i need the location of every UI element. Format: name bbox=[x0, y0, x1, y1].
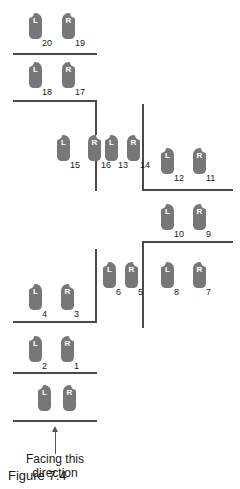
footprint: R9 bbox=[193, 204, 206, 230]
footprint-number: 7 bbox=[206, 288, 211, 297]
footprint-number: 18 bbox=[42, 88, 52, 97]
wall-bottom-2 bbox=[13, 372, 97, 374]
wall-vertical-right bbox=[142, 241, 144, 328]
direction-caption-line-1: Facing this bbox=[12, 452, 98, 466]
footprint: R11 bbox=[193, 148, 206, 174]
footprint-side-label: R bbox=[88, 138, 101, 147]
footprint-side-label: L bbox=[161, 265, 174, 274]
footprint-number: 2 bbox=[42, 362, 47, 371]
footprint: R7 bbox=[193, 262, 206, 288]
footprint-side-label: L bbox=[105, 138, 118, 147]
footprint-side-label: R bbox=[63, 388, 76, 397]
figure-label: Figure 7.4 bbox=[8, 468, 67, 483]
footprint-side-label: R bbox=[125, 265, 138, 274]
footprint-number: 1 bbox=[74, 362, 79, 371]
footprint-number: 14 bbox=[140, 161, 150, 170]
footprint: R19 bbox=[62, 13, 75, 39]
footprint-side-label: L bbox=[29, 65, 42, 74]
wall-right-upper bbox=[142, 189, 233, 191]
footprint: L18 bbox=[29, 62, 42, 88]
footprint: L bbox=[38, 385, 51, 411]
footprint-side-label: L bbox=[29, 339, 42, 348]
footprint: L12 bbox=[161, 148, 174, 174]
footprint: L8 bbox=[161, 262, 174, 288]
footprint: L2 bbox=[29, 336, 42, 362]
footprint-side-label: L bbox=[29, 16, 42, 25]
footprint-side-label: R bbox=[62, 65, 75, 74]
footprint-side-label: L bbox=[161, 151, 174, 160]
footprint: L20 bbox=[29, 13, 42, 39]
footprint-side-label: L bbox=[38, 388, 51, 397]
footprint-number: 12 bbox=[174, 174, 184, 183]
footprint: R1 bbox=[61, 336, 74, 362]
footprint-number: 6 bbox=[116, 288, 121, 297]
footprint-number: 11 bbox=[206, 174, 215, 183]
footprint: L15 bbox=[57, 135, 70, 161]
footprint: R bbox=[63, 385, 76, 411]
wall-vertical-mid-2 bbox=[95, 249, 97, 323]
footprint: R5 bbox=[125, 262, 138, 288]
footprint-number: 5 bbox=[138, 288, 143, 297]
footprint-side-label: R bbox=[62, 16, 75, 25]
footprint-number: 13 bbox=[118, 161, 128, 170]
footprint-number: 16 bbox=[101, 161, 111, 170]
footprint-side-label: L bbox=[57, 138, 70, 147]
figure-canvas: L20R19L18R17L15R16L13R14L12R11L10R9L8R7L… bbox=[0, 0, 240, 489]
footprint-number: 10 bbox=[174, 230, 184, 239]
wall-right-lower bbox=[142, 241, 233, 243]
footprint-side-label: R bbox=[61, 339, 74, 348]
wall-vertical-mid bbox=[142, 104, 144, 191]
arrow-shaft bbox=[55, 431, 56, 454]
footprint-number: 8 bbox=[174, 288, 179, 297]
footprint: R17 bbox=[62, 62, 75, 88]
wall-bottom-3 bbox=[13, 420, 97, 422]
footprint-side-label: L bbox=[103, 265, 116, 274]
footprint-side-label: R bbox=[193, 151, 206, 160]
footprint-number: 9 bbox=[206, 230, 211, 239]
footprint: R3 bbox=[61, 284, 74, 310]
footprint: R14 bbox=[127, 135, 140, 161]
footprint-number: 17 bbox=[75, 88, 85, 97]
up-arrow-icon bbox=[52, 426, 59, 454]
footprint: L10 bbox=[161, 204, 174, 230]
footprint: L13 bbox=[105, 135, 118, 161]
footprint: L6 bbox=[103, 262, 116, 288]
footprint-side-label: R bbox=[193, 265, 206, 274]
wall-bottom-1 bbox=[13, 321, 97, 323]
footprint-side-label: R bbox=[127, 138, 140, 147]
footprint-side-label: L bbox=[29, 287, 42, 296]
footprint-number: 4 bbox=[42, 310, 47, 319]
footprint-side-label: L bbox=[161, 207, 174, 216]
footprint: R16 bbox=[88, 135, 101, 161]
footprint-number: 19 bbox=[75, 39, 85, 48]
footprint-side-label: R bbox=[61, 287, 74, 296]
wall-top-2 bbox=[13, 100, 97, 102]
footprint-number: 20 bbox=[42, 39, 52, 48]
footprint: L4 bbox=[29, 284, 42, 310]
footprint-number: 15 bbox=[70, 161, 80, 170]
wall-top-1 bbox=[13, 53, 97, 55]
footprint-number: 3 bbox=[74, 310, 79, 319]
footprint-side-label: R bbox=[193, 207, 206, 216]
